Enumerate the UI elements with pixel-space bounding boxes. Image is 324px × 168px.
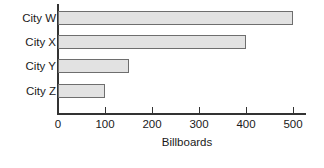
x-axis-tick-label-5: 500 xyxy=(273,117,313,131)
x-axis-tick-label-3: 300 xyxy=(179,117,219,131)
x-axis-title: Billboards xyxy=(0,136,324,148)
x-axis-title-text: Billboards xyxy=(112,136,213,148)
x-axis-tick-label-1: 100 xyxy=(85,117,125,131)
y-axis-tick-label-2: City Y xyxy=(0,59,56,73)
x-axis-tick-label-4: 400 xyxy=(226,117,266,131)
bar-city-x xyxy=(58,35,246,49)
bar-city-z xyxy=(58,84,105,98)
x-axis-tick-2 xyxy=(152,107,153,114)
x-axis-line xyxy=(57,113,306,115)
x-axis-tick-4 xyxy=(246,107,247,114)
x-axis-tick-1 xyxy=(105,107,106,114)
x-axis-tick-0 xyxy=(58,107,59,114)
bar-chart: City W City X City Y City Z 010020030040… xyxy=(0,0,324,168)
y-axis-tick-label-1: City X xyxy=(0,35,56,49)
x-axis-tick-label-2: 200 xyxy=(132,117,172,131)
bar-city-y xyxy=(58,59,129,73)
x-axis-tick-3 xyxy=(199,107,200,114)
x-axis-tick-label-0: 0 xyxy=(38,117,78,131)
y-axis-tick-label-3: City Z xyxy=(0,84,56,98)
bar-city-w xyxy=(58,11,293,25)
x-axis-tick-5 xyxy=(293,107,294,114)
y-axis-tick-label-0: City W xyxy=(0,11,56,25)
